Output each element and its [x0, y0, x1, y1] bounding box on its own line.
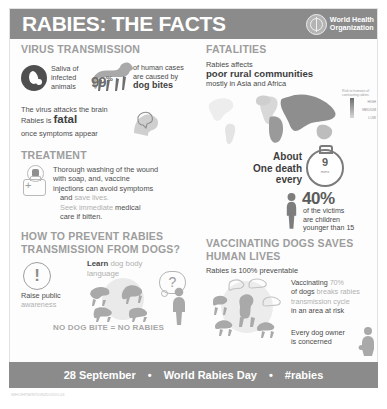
brain-head-icon — [130, 107, 160, 137]
dog-owner-caption: Every dog owner is concerned — [291, 328, 363, 347]
no-dog-bite-tagline: NO DOG BITE = NO RABIES — [21, 323, 196, 332]
who-logo: World Health Organization — [306, 13, 374, 35]
treatment-block: Thorough washing of the wound with soap,… — [21, 165, 196, 223]
section-heading-virus-transmission: VIRUS TRANSMISSION — [21, 43, 196, 56]
vac-line-1-pre: Vaccinating — [291, 278, 328, 287]
vac-line-4: in an area at risk — [291, 306, 377, 315]
who-logo-text: World Health Organization — [330, 16, 374, 32]
vac-line-1-percent: 70% — [330, 278, 344, 287]
treatment-save-lives: save lives. — [74, 193, 109, 202]
who-emblem-icon — [306, 14, 327, 35]
footer-hashtag: #rabies — [285, 369, 324, 381]
percent-caption-line1: of human cases — [133, 63, 197, 72]
vac-line-2-grey: breaks rabies — [317, 287, 360, 296]
stopwatch-value: 9 — [308, 156, 342, 168]
death-rate-block: About One death every 9 mins — [206, 147, 376, 191]
treatment-line-2: with soap, and, vaccine — [53, 174, 196, 183]
who-logo-line2: Organization — [330, 24, 374, 32]
dog-circle-icon — [204, 274, 290, 340]
death-line-3: every — [212, 174, 302, 186]
vac-line-1: Vaccinating 70% — [291, 278, 377, 287]
death-rate-caption: About One death every — [212, 151, 302, 186]
section-heading-vaccinating-line2: HUMAN LIVES — [206, 250, 376, 263]
victims-line-1: of the victims — [303, 207, 377, 215]
treatment-line-6: care if bitten. — [53, 212, 196, 221]
person-silhouette-icon — [169, 287, 189, 325]
treatment-seek-immediate: Seek immediate — [60, 203, 113, 212]
fatalities-line-3: mostly in Asia and Africa — [206, 79, 376, 89]
victims-caption: of the victims are children younger than… — [303, 207, 377, 232]
section-heading-vaccinating-line1: VACCINATING DOGS SAVES — [206, 237, 376, 250]
section-heading-treatment: TREATMENT — [21, 149, 196, 162]
treatment-line-4-pre: and — [60, 193, 72, 202]
legend-title: Risk to humans of contracting rabies — [342, 89, 376, 97]
brain-block: The virus attacks the brain Rabies is fa… — [21, 105, 196, 141]
vac-line-2: of dogs breaks rabies — [291, 287, 377, 296]
victims-line-3: younger than 15 — [303, 224, 377, 232]
legend-gradient-bar — [350, 98, 354, 118]
percent-99-value: 99% — [91, 73, 112, 90]
brain-line-2: Rabies is fatal — [21, 115, 77, 125]
dog-owner-icon — [356, 326, 378, 356]
section-heading-prevent-line2: TRANSMISSION FROM DOGS? — [21, 243, 196, 256]
legend-medium: MEDIUM — [362, 108, 376, 112]
stopwatch-unit: mins — [308, 169, 342, 174]
treatment-line-1: Thorough washing of the wound — [53, 165, 196, 174]
treatment-line-5: Seek immediate medical — [53, 203, 196, 212]
footer-date: 28 September — [64, 369, 136, 381]
poster-header: RABIES: THE FACTS World Health Organizat… — [10, 9, 378, 39]
death-line-1: About — [212, 151, 302, 163]
world-map-block: Risk to humans of contracting rabies HIG… — [206, 89, 376, 147]
footer-band: 28 September • World Rabies Day • #rabie… — [9, 362, 378, 388]
fatalities-caption: Rabies affects poor rural communities mo… — [206, 60, 376, 89]
credit-line: WHO/HTM/NTD/NZD/2015.01 — [11, 392, 271, 397]
footer-event: World Rabies Day — [164, 369, 257, 381]
map-legend: Risk to humans of contracting rabies — [342, 89, 376, 97]
brain-line-2-pre: Rabies is — [21, 116, 51, 125]
awareness-line-2: awareness — [21, 300, 79, 309]
victims-percent: 40% — [302, 189, 335, 209]
legend-high: HIGH — [368, 100, 376, 104]
percent-caption-bold: dog bites — [133, 81, 197, 90]
percent-caption: of human cases are caused by dog bites — [133, 63, 197, 91]
saliva-caption: Saliva of infected animals — [51, 64, 93, 91]
child-silhouette-icon — [284, 191, 299, 231]
left-column: VIRUS TRANSMISSION Saliva of infected an… — [21, 43, 196, 333]
infographic-poster: RABIES: THE FACTS World Health Organizat… — [9, 8, 378, 384]
section-heading-prevent-line1: HOW TO PREVENT RABIES — [21, 230, 196, 243]
world-map-icon — [204, 91, 344, 147]
legend-low: LOW — [368, 116, 376, 120]
dog-pack-icon — [81, 277, 166, 322]
vac-line-3: transmission cycle — [291, 297, 377, 306]
owner-line-2: is concerned — [291, 337, 363, 346]
victims-line-2: are children — [303, 216, 377, 224]
virus-transmission-row: Saliva of infected animals 99% of human … — [21, 60, 196, 102]
brain-line-2-bold: fatal — [53, 113, 77, 125]
brain-line-3: once symptoms appear — [21, 129, 98, 138]
victims-block: 40% of the victims are children younger … — [206, 191, 376, 233]
vac-line-2-pre: of dogs — [291, 287, 315, 296]
awareness-line-1: Raise public — [21, 291, 79, 300]
death-line-2: One death — [212, 163, 302, 175]
owner-line-1: Every dog owner — [291, 328, 363, 337]
vaccinating-block: Vaccinating 70% of dogs breaks rabies tr… — [206, 278, 376, 358]
section-heading-fatalities: FATALITIES — [206, 43, 376, 56]
learn-caption: Learn dog body language — [87, 259, 159, 279]
awareness-caption: Raise public awareness — [21, 291, 79, 310]
fatalities-line-2: poor rural communities — [206, 69, 376, 79]
vaccinating-caption: Vaccinating 70% of dogs breaks rabies tr… — [291, 278, 377, 316]
exclamation-circle-icon — [23, 262, 51, 290]
treatment-line-3: injections can avoid symptoms — [53, 184, 196, 193]
page-title: RABIES: THE FACTS — [22, 12, 226, 36]
medical-kit-icon — [23, 179, 46, 196]
blood-drop-icon — [21, 65, 47, 91]
stopwatch-icon: 9 mins — [306, 149, 344, 187]
learn-bold: Learn — [87, 259, 108, 268]
treatment-line-4: and save lives. — [53, 193, 196, 202]
treatment-line-5-post: medical — [115, 203, 140, 212]
footer-separator-2: • — [257, 369, 285, 381]
right-column: FATALITIES Rabies affects poor rural com… — [206, 43, 376, 358]
prevent-block: Raise public awareness Learn dog body la… — [21, 259, 196, 333]
footer-separator-1: • — [136, 369, 164, 381]
